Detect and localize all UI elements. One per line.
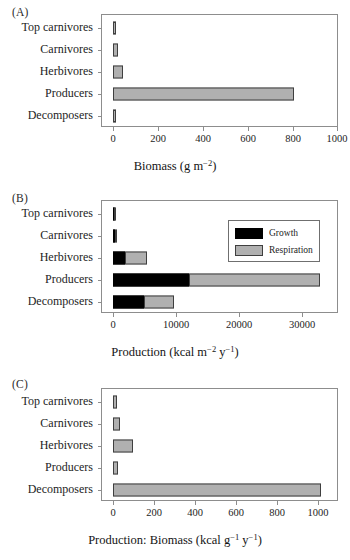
y-tick-carnivores bbox=[98, 424, 102, 425]
panel-b-x-axis: 0 10000 20000 30000 bbox=[101, 313, 338, 339]
x-ticklabel-30000: 30000 bbox=[289, 319, 315, 330]
panel-c-x-axis-title-mid: y bbox=[239, 533, 248, 547]
cat-label-top-carnivores: Top carnivores bbox=[22, 21, 93, 33]
y-tick-top-carnivores bbox=[98, 214, 102, 215]
cat-label-carnivores: Carnivores bbox=[40, 43, 93, 55]
panel-b-x-axis-title-tail: ) bbox=[235, 345, 239, 359]
panel-b-category-labels: Top carnivores Carnivores Herbivores Pro… bbox=[0, 200, 97, 313]
bar-segment-respiration bbox=[114, 208, 116, 221]
x-tick-20000 bbox=[239, 313, 240, 317]
panel-c: (C) Top carnivores Carnivores Herbivores… bbox=[0, 372, 350, 560]
bar-segment-ratio bbox=[113, 484, 321, 497]
panel-c-x-axis-title-exponent-2: −1 bbox=[249, 532, 258, 542]
bar-segment-biomass bbox=[113, 66, 123, 79]
x-tick-800 bbox=[277, 501, 278, 505]
cat-label-carnivores: Carnivores bbox=[40, 417, 93, 429]
panel-b-legend: Growth Respiration bbox=[228, 220, 320, 262]
legend-swatch-growth-icon bbox=[235, 228, 263, 239]
bar-segment-respiration bbox=[125, 252, 147, 265]
y-tick-top-carnivores bbox=[98, 28, 102, 29]
x-ticklabel-1000: 1000 bbox=[308, 507, 329, 518]
y-tick-decomposers bbox=[98, 116, 102, 117]
x-tick-1000 bbox=[318, 501, 319, 505]
panel-b: (B) Top carnivores Carnivores Herbivores… bbox=[0, 186, 350, 372]
x-tick-800 bbox=[293, 127, 294, 131]
panel-b-x-axis-title-exponent-2: −1 bbox=[226, 344, 235, 354]
x-ticklabel-800: 800 bbox=[285, 133, 301, 144]
bar-segment-biomass bbox=[113, 44, 118, 57]
x-tick-1000 bbox=[337, 127, 338, 131]
x-ticklabel-200: 200 bbox=[146, 507, 162, 518]
panel-c-x-axis-title-tail: ) bbox=[258, 533, 262, 547]
bar-segment-respiration bbox=[189, 274, 320, 287]
panel-c-x-axis-title-exponent-1: −1 bbox=[230, 532, 239, 542]
x-ticklabel-800: 800 bbox=[269, 507, 285, 518]
y-tick-top-carnivores bbox=[98, 402, 102, 403]
panel-a-x-axis-title-exponent: −2 bbox=[203, 158, 212, 168]
x-tick-10000 bbox=[176, 313, 177, 317]
bar-segment-ratio bbox=[113, 462, 118, 475]
cat-label-herbivores: Herbivores bbox=[40, 439, 93, 451]
bar-segment-ratio bbox=[113, 418, 120, 431]
y-tick-producers bbox=[98, 94, 102, 95]
x-tick-0 bbox=[113, 501, 114, 505]
x-ticklabel-0: 0 bbox=[110, 133, 115, 144]
panel-c-category-labels: Top carnivores Carnivores Herbivores Pro… bbox=[0, 388, 97, 501]
bar-segment-ratio bbox=[113, 396, 117, 409]
x-ticklabel-600: 600 bbox=[240, 133, 256, 144]
x-ticklabel-10000: 10000 bbox=[163, 319, 189, 330]
panel-c-x-axis-title: Production: Biomass (kcal g−1 y−1) bbox=[0, 532, 350, 548]
cat-label-producers: Producers bbox=[45, 461, 93, 473]
cat-label-top-carnivores: Top carnivores bbox=[22, 207, 93, 219]
bar-segment-respiration bbox=[115, 230, 117, 243]
legend-label-growth: Growth bbox=[269, 227, 298, 239]
cat-label-decomposers: Decomposers bbox=[28, 483, 93, 495]
panel-b-x-axis-title-exponent-1: −2 bbox=[207, 344, 216, 354]
legend-swatch-respiration-icon bbox=[235, 245, 263, 256]
bar-segment-respiration bbox=[144, 296, 174, 309]
x-tick-600 bbox=[248, 127, 249, 131]
y-tick-herbivores bbox=[98, 446, 102, 447]
x-ticklabel-0: 0 bbox=[110, 507, 115, 518]
x-ticklabel-200: 200 bbox=[150, 133, 166, 144]
cat-label-decomposers: Decomposers bbox=[28, 295, 93, 307]
panel-a-x-axis: 0 200 400 600 800 1000 bbox=[101, 127, 338, 153]
panel-a: (A) Top carnivores Carnivores Herbivores… bbox=[0, 0, 350, 186]
panel-c-x-axis: 0 200 400 600 800 1000 bbox=[101, 501, 338, 527]
cat-label-carnivores: Carnivores bbox=[40, 229, 93, 241]
panel-c-x-axis-title-main: Production: Biomass (kcal g bbox=[88, 533, 230, 547]
x-ticklabel-0: 0 bbox=[110, 319, 115, 330]
cat-label-herbivores: Herbivores bbox=[40, 251, 93, 263]
bar-segment-growth bbox=[113, 296, 144, 309]
x-ticklabel-400: 400 bbox=[195, 133, 211, 144]
x-tick-200 bbox=[154, 501, 155, 505]
cat-label-decomposers: Decomposers bbox=[28, 109, 93, 121]
x-ticklabel-1000: 1000 bbox=[327, 133, 348, 144]
y-tick-carnivores bbox=[98, 236, 102, 237]
y-tick-decomposers bbox=[98, 302, 102, 303]
bar-segment-ratio bbox=[113, 440, 133, 453]
x-tick-0 bbox=[113, 313, 114, 317]
x-tick-0 bbox=[113, 127, 114, 131]
panel-a-category-labels: Top carnivores Carnivores Herbivores Pro… bbox=[0, 14, 97, 127]
panel-a-x-axis-title-main: Biomass (g m bbox=[134, 159, 203, 173]
x-ticklabel-400: 400 bbox=[187, 507, 203, 518]
cat-label-producers: Producers bbox=[45, 87, 93, 99]
ecosystem-energetics-figure: (A) Top carnivores Carnivores Herbivores… bbox=[0, 0, 350, 560]
panel-b-x-axis-title: Production (kcal m−2 y−1) bbox=[0, 344, 350, 360]
panel-a-x-axis-title-tail: ) bbox=[212, 159, 216, 173]
bar-segment-growth bbox=[113, 274, 189, 287]
y-tick-producers bbox=[98, 280, 102, 281]
cat-label-herbivores: Herbivores bbox=[40, 65, 93, 77]
panel-c-plot-area bbox=[101, 388, 338, 501]
legend-label-respiration: Respiration bbox=[269, 244, 313, 256]
cat-label-top-carnivores: Top carnivores bbox=[22, 395, 93, 407]
y-tick-carnivores bbox=[98, 50, 102, 51]
panel-b-x-axis-title-main: Production (kcal m bbox=[111, 345, 207, 359]
panel-b-x-axis-title-mid: y bbox=[216, 345, 225, 359]
panel-a-x-axis-title: Biomass (g m−2) bbox=[0, 158, 350, 174]
y-tick-herbivores bbox=[98, 258, 102, 259]
x-tick-30000 bbox=[302, 313, 303, 317]
cat-label-producers: Producers bbox=[45, 273, 93, 285]
y-tick-producers bbox=[98, 468, 102, 469]
